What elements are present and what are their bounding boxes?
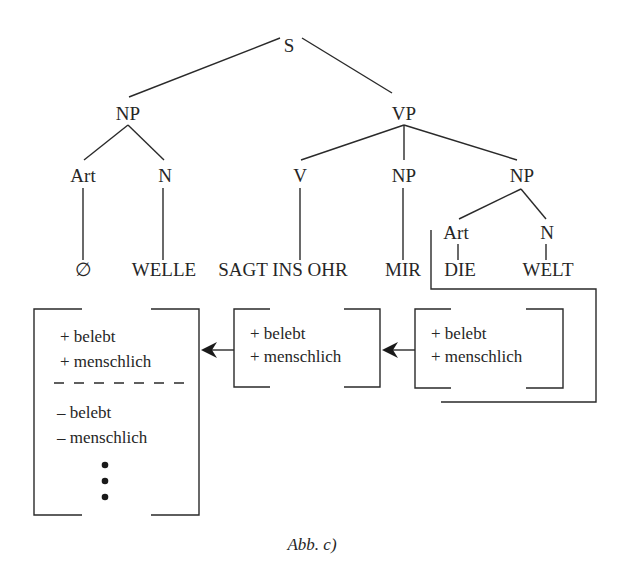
leaf-mir: MIR <box>385 259 421 280</box>
syntax-tree-diagram: S NP VP Art N V NP NP Art N ∅ WELLE SAGT… <box>0 0 624 575</box>
node-vp: VP <box>392 103 416 124</box>
bracket-right <box>151 309 199 515</box>
feature-box-subject: + belebt + menschlich – belebt – menschl… <box>34 309 199 515</box>
feature-line: – menschlich <box>56 428 148 447</box>
tree-edges <box>83 38 546 260</box>
leaf-welle: WELLE <box>132 259 196 280</box>
feature-line: + belebt <box>431 324 487 343</box>
node-n-subject: N <box>158 165 172 186</box>
node-art-object: Art <box>443 222 469 243</box>
feature-line: + menschlich <box>431 347 523 366</box>
leaf-die: DIE <box>444 259 476 280</box>
node-n-object: N <box>540 222 554 243</box>
bracket-right <box>344 309 380 387</box>
node-v: V <box>293 165 307 186</box>
feature-line: + belebt <box>60 327 116 346</box>
leaf-empty-article: ∅ <box>75 259 92 280</box>
vertical-ellipsis-icon <box>102 462 109 501</box>
node-np-object: NP <box>510 165 534 186</box>
edge-np2-art <box>459 189 521 219</box>
feature-line: + belebt <box>250 324 306 343</box>
figure-caption: Abb. c) <box>286 535 336 554</box>
edge-np2-n <box>521 189 546 219</box>
feature-box-indirect-object: + belebt + menschlich <box>234 309 380 387</box>
edge-vp-v <box>301 125 404 160</box>
edge-s-np <box>129 38 280 97</box>
edge-vp-np2 <box>404 125 517 160</box>
edge-np-art <box>84 125 128 160</box>
node-np-indirect: NP <box>392 165 416 186</box>
node-s: S <box>284 35 295 56</box>
node-art-subject: Art <box>70 165 96 186</box>
bracket-right <box>526 309 563 388</box>
leaf-welt: WELT <box>522 259 573 280</box>
loop-connector <box>431 230 596 402</box>
feature-box-object: + belebt + menschlich <box>415 309 563 388</box>
node-np-subject: NP <box>116 103 140 124</box>
edge-np-n <box>128 125 164 160</box>
feature-line: – belebt <box>56 403 112 422</box>
feature-line: + menschlich <box>60 352 152 371</box>
tree-leaves: ∅ WELLE SAGT INS OHR MIR DIE WELT <box>75 259 574 280</box>
edge-s-vp <box>302 38 392 93</box>
leaf-sagt-ins-ohr: SAGT INS OHR <box>218 259 348 280</box>
feature-line: + menschlich <box>250 347 342 366</box>
